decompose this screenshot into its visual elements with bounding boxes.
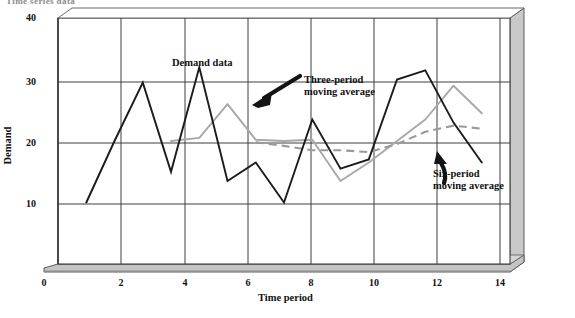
frame-top-cap	[58, 8, 524, 18]
x-tick-10: 10	[364, 277, 384, 288]
y-tick-30: 30	[20, 76, 42, 87]
annotation-three-period: Three-period moving average	[304, 74, 375, 98]
annotation-six-period-line1: Six-period	[433, 168, 504, 180]
annotation-six-period: Six-period moving average	[433, 168, 504, 192]
y-tick-10: 10	[20, 198, 42, 209]
frame-right-panel	[510, 8, 524, 272]
annotation-demand-data: Demand data	[172, 57, 232, 69]
y-axis-title: Demand	[2, 127, 13, 165]
x-axis-title: Time period	[258, 292, 313, 303]
chart-canvas	[0, 0, 575, 318]
annotation-six-period-line2: moving average	[433, 180, 504, 192]
x-tick-0: 0	[34, 277, 54, 288]
x-tick-14: 14	[490, 277, 510, 288]
x-tick-2: 2	[111, 277, 131, 288]
y-tick-20: 20	[20, 137, 42, 148]
x-tick-4: 4	[175, 277, 195, 288]
annotation-three-period-line1: Three-period	[304, 74, 375, 86]
x-tick-6: 6	[238, 277, 258, 288]
x-tick-8: 8	[301, 277, 321, 288]
annotation-three-period-line2: moving average	[304, 86, 375, 98]
chart-figure: Time series data	[0, 0, 575, 318]
x-tick-12: 12	[427, 277, 447, 288]
y-tick-40: 40	[20, 12, 42, 23]
